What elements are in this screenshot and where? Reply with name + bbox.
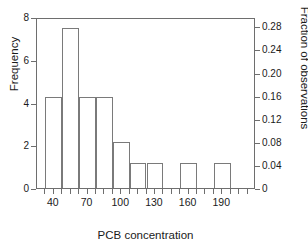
x-axis-tick-label: 40 [47, 197, 59, 208]
x-axis-minor-tick [179, 189, 180, 194]
left-axis-tick [31, 104, 36, 105]
x-axis-minor-tick [213, 189, 214, 194]
right-axis-tick-label: 0.16 [262, 92, 281, 102]
x-axis-minor-tick [95, 189, 96, 194]
x-axis-minor-tick [137, 189, 138, 194]
histogram-bar [45, 97, 62, 188]
x-axis-minor-tick [230, 189, 231, 194]
x-axis-tick [53, 189, 54, 194]
left-axis: 02468 Frequency [0, 0, 36, 190]
right-axis-tick [255, 166, 260, 167]
right-axis-title: Fraction of observations [299, 4, 308, 132]
x-axis-minor-tick [44, 189, 45, 194]
x-axis-minor-tick [103, 189, 104, 194]
x-axis-minor-tick [196, 189, 197, 194]
x-axis-minor-tick [129, 189, 130, 194]
histogram-bar [214, 163, 231, 188]
caption-sliver [0, 246, 308, 251]
x-axis-tick [120, 189, 121, 194]
x-axis-tick-label: 190 [213, 197, 231, 208]
right-axis-tick-label: 0.12 [262, 115, 281, 125]
x-axis-tick [188, 189, 189, 194]
x-axis-minor-tick [238, 189, 239, 194]
x-axis-minor-tick [146, 189, 147, 194]
right-axis-tick [255, 120, 260, 121]
right-axis-tick [255, 50, 260, 51]
histogram-bar [96, 97, 113, 188]
right-axis-tick [255, 74, 260, 75]
x-axis-minor-tick [247, 189, 248, 194]
left-axis-tick [31, 18, 36, 19]
histogram-bar [147, 163, 164, 188]
right-axis-tick [255, 143, 260, 144]
x-axis-minor-tick [78, 189, 79, 194]
x-axis-minor-tick [61, 189, 62, 194]
histogram-bar [180, 163, 197, 188]
plot-area [36, 18, 255, 189]
x-axis-tick [154, 189, 155, 194]
right-axis: 00.040.080.120.160.200.240.28 Fraction o… [255, 0, 308, 190]
x-axis-tick-label: 130 [145, 197, 163, 208]
right-axis-tick [255, 189, 260, 190]
right-axis-tick-label: 0.24 [262, 45, 281, 55]
left-axis-tick-label: 8 [23, 13, 29, 23]
x-axis-minor-tick [112, 189, 113, 194]
x-axis-minor-tick [171, 189, 172, 194]
right-axis-tick-label: 0.04 [262, 161, 281, 171]
x-axis-tick [87, 189, 88, 194]
x-axis-title: PCB concentration [36, 229, 255, 241]
histogram-bar [62, 28, 79, 188]
histogram-figure: 02468 Frequency 00.040.080.120.160.200.2… [0, 0, 308, 251]
x-axis-tick-label: 100 [111, 197, 129, 208]
histogram-bar [113, 142, 130, 188]
x-axis-tick-label: 160 [179, 197, 197, 208]
x-axis-minor-tick [162, 189, 163, 194]
x-axis-minor-tick [70, 189, 71, 194]
x-axis-tick-label: 70 [81, 197, 93, 208]
right-axis-tick [255, 27, 260, 28]
left-axis-title: Frequency [8, 16, 20, 112]
left-axis-tick-label: 2 [23, 141, 29, 151]
left-axis-tick-label: 4 [23, 99, 29, 109]
x-axis-minor-tick [204, 189, 205, 194]
right-axis-tick-label: 0 [262, 184, 268, 194]
left-axis-tick [31, 146, 36, 147]
left-axis-tick-label: 0 [23, 184, 29, 194]
x-axis-tick [221, 189, 222, 194]
right-axis-tick-label: 0.08 [262, 138, 281, 148]
histogram-bar [79, 97, 96, 188]
bottom-axis: 4070100130160190 [36, 189, 255, 229]
left-axis-tick-label: 6 [23, 56, 29, 66]
right-axis-tick [255, 97, 260, 98]
right-axis-tick-label: 0.28 [262, 22, 281, 32]
left-axis-tick [31, 61, 36, 62]
histogram-bar [130, 163, 147, 188]
right-axis-tick-label: 0.20 [262, 69, 281, 79]
